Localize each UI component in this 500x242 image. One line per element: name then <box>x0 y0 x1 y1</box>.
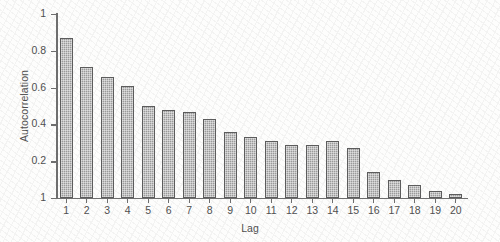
y-tick-label: 0.6 <box>6 80 46 92</box>
y-tick-label: 0.8 <box>6 43 46 55</box>
bar <box>224 132 237 198</box>
bar <box>326 141 339 198</box>
x-tick-mark <box>312 198 313 203</box>
y-tick-label: 1 <box>6 191 46 203</box>
y-tick-label: 0.2 <box>6 154 46 166</box>
bar <box>265 141 278 198</box>
plot-area <box>56 14 466 198</box>
x-tick-mark <box>271 198 272 203</box>
bar <box>408 185 421 198</box>
x-tick-mark <box>148 198 149 203</box>
x-tick-mark <box>394 198 395 203</box>
x-tick-mark <box>86 198 87 203</box>
x-tick-mark <box>66 198 67 203</box>
bar <box>388 180 401 198</box>
bar <box>347 148 360 198</box>
bar <box>244 137 257 198</box>
x-tick-mark <box>127 198 128 203</box>
bar <box>142 106 155 198</box>
autocorrelation-bar-chart: Autocorrelation 10.80.60.40.21 123456789… <box>0 0 500 242</box>
y-tick-label: 0.4 <box>6 117 46 129</box>
x-tick-mark <box>250 198 251 203</box>
x-tick-mark <box>435 198 436 203</box>
x-tick-mark <box>291 198 292 203</box>
y-tick-mark <box>51 198 57 199</box>
x-tick-mark <box>189 198 190 203</box>
bar <box>80 67 93 198</box>
x-tick-mark <box>455 198 456 203</box>
x-tick-mark <box>414 198 415 203</box>
bar <box>306 145 319 198</box>
y-tick-label: 1 <box>6 7 46 19</box>
bar <box>285 145 298 198</box>
bar <box>203 119 216 198</box>
bar <box>101 77 114 198</box>
x-tick-mark <box>168 198 169 203</box>
x-tick-mark <box>353 198 354 203</box>
bar <box>60 38 73 198</box>
y-axis-label: Autocorrelation <box>18 46 30 166</box>
x-tick-label: 20 <box>444 204 468 216</box>
x-axis-label: Lag <box>0 222 500 234</box>
bar <box>121 86 134 198</box>
x-tick-mark <box>209 198 210 203</box>
x-tick-mark <box>373 198 374 203</box>
bar <box>183 112 196 198</box>
bar <box>162 110 175 198</box>
y-axis-label-container: Autocorrelation <box>8 14 22 198</box>
x-tick-mark <box>332 198 333 203</box>
bar <box>367 172 380 198</box>
x-tick-mark <box>107 198 108 203</box>
x-tick-mark <box>230 198 231 203</box>
bar <box>429 191 442 198</box>
